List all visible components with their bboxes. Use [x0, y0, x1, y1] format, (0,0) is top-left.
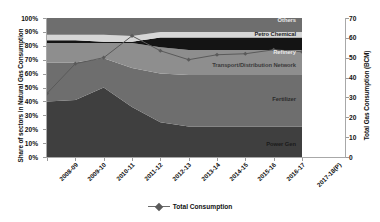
x-tick-mark: [104, 158, 105, 161]
x-tick-mark: [160, 158, 161, 161]
y-tick-left-50: 50%: [12, 84, 38, 91]
x-tick-mark: [302, 158, 303, 161]
y-tick-left-0: 0%: [12, 154, 38, 161]
y-tick-right-20: 20: [349, 114, 369, 121]
total-consumption-line: [47, 18, 302, 157]
data-point-marker: [215, 53, 219, 57]
series-label-refinery: Refinery: [273, 49, 296, 55]
y-tick-right-40: 40: [349, 74, 369, 81]
y-tick-mark-right: [346, 18, 349, 19]
x-tick-2011-12: 2011-12: [143, 161, 164, 182]
y-tick-left-60: 60%: [12, 70, 38, 77]
y-tick-left-20: 20%: [12, 126, 38, 133]
y-tick-mark-left: [43, 143, 46, 144]
x-tick-mark: [132, 158, 133, 161]
plot-area: [47, 18, 302, 157]
area-chart: Share of sectors in Natural Gas Consumpt…: [0, 0, 380, 222]
y-tick-mark-left: [43, 60, 46, 61]
y-tick-right-60: 60: [349, 34, 369, 41]
y-tick-mark-right: [346, 97, 349, 98]
data-point-marker: [300, 50, 302, 54]
x-tick-2013-14: 2013-14: [199, 161, 220, 182]
y-tick-mark-left: [43, 115, 46, 116]
y-tick-left-40: 40%: [12, 98, 38, 105]
y-tick-mark-right: [346, 78, 349, 79]
y-tick-right-70: 70: [349, 15, 369, 22]
x-tick-mark: [245, 158, 246, 161]
x-tick-2015-16: 2015-16: [256, 161, 277, 182]
y-tick-mark-right: [346, 137, 349, 138]
x-tick-mark: [47, 158, 48, 161]
data-point-marker: [243, 52, 247, 56]
y-tick-mark-left: [43, 129, 46, 130]
chart-legend: Total Consumption: [0, 203, 380, 210]
y-tick-mark-left: [43, 101, 46, 102]
y-tick-left-70: 70%: [12, 56, 38, 63]
y-tick-right-50: 50: [349, 54, 369, 61]
y-tick-left-100: 100%: [12, 15, 38, 22]
y-tick-mark-right: [346, 117, 349, 118]
data-point-marker: [187, 58, 191, 62]
y-tick-mark-left: [43, 18, 46, 19]
x-tick-mark: [75, 158, 76, 161]
y-tick-mark-left: [43, 32, 46, 33]
y-tick-right-30: 30: [349, 94, 369, 101]
legend-line-marker-icon: [148, 206, 170, 207]
y-tick-left-80: 80%: [12, 42, 38, 49]
x-tick-2010-11: 2010-11: [114, 161, 135, 182]
y-tick-mark-left: [43, 88, 46, 89]
y-tick-mark-right: [346, 58, 349, 59]
x-tick-mark: [274, 158, 275, 161]
x-tick-2017-18-P-: 2017-18(P): [315, 161, 342, 188]
legend-item-total-consumption: Total Consumption: [173, 203, 233, 210]
x-tick-2008-09: 2008-09: [58, 161, 79, 182]
series-label-transport-distribution-network: Transport/Distribution Network: [212, 62, 296, 68]
y-tick-right-10: 10: [349, 134, 369, 141]
series-label-petro-chemical: Petro Chemical: [254, 31, 296, 37]
y-tick-mark-left: [43, 157, 46, 158]
y-tick-mark-left: [43, 46, 46, 47]
y-tick-right-0: 0: [349, 154, 369, 161]
y-tick-left-30: 30%: [12, 112, 38, 119]
x-axis-line: [46, 157, 346, 158]
x-tick-2014-15: 2014-15: [228, 161, 249, 182]
series-label-power-gen: Power Gen: [266, 141, 296, 147]
x-tick-mark: [217, 158, 218, 161]
y-tick-left-10: 10%: [12, 140, 38, 147]
y-tick-mark-right: [346, 38, 349, 39]
series-label-fertilizer: Fertilizer: [272, 96, 296, 102]
series-label-others: Others: [278, 17, 296, 23]
x-tick-2016-17: 2016-17: [284, 161, 305, 182]
y-tick-mark-left: [43, 74, 46, 75]
data-point-marker: [158, 49, 162, 53]
x-tick-2009-10: 2009-10: [86, 161, 107, 182]
x-tick-2012-13: 2012-13: [171, 161, 192, 182]
x-tick-mark: [189, 158, 190, 161]
y-tick-mark-right: [346, 157, 349, 158]
y-tick-left-90: 90%: [12, 28, 38, 35]
